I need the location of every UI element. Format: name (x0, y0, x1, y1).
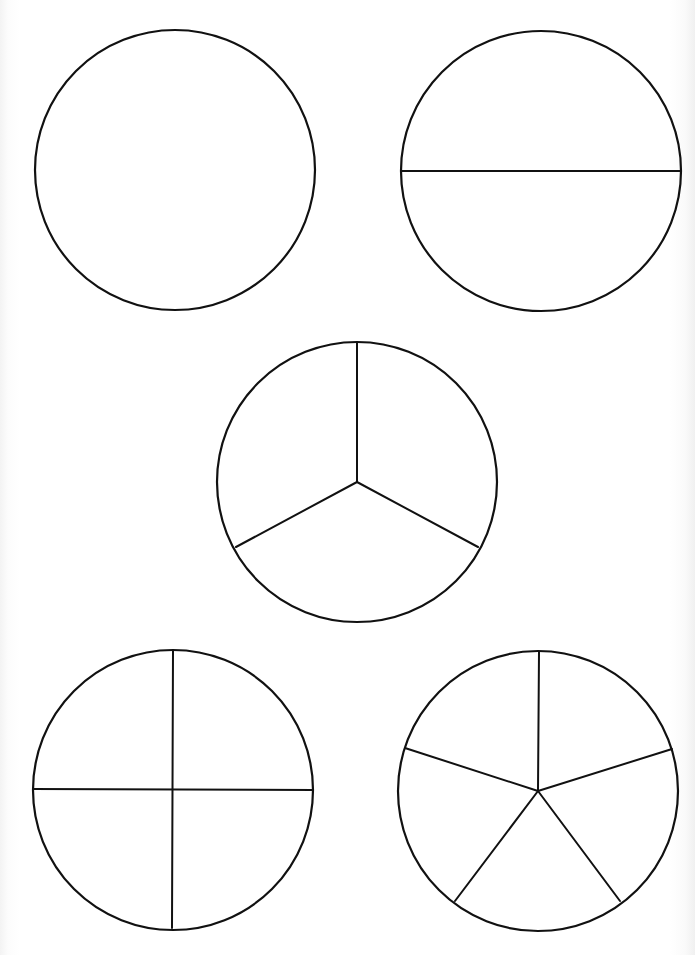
circle-quarters (33, 650, 313, 930)
fraction-circles-diagram (0, 0, 695, 955)
divider-line (538, 791, 620, 901)
divider-line (357, 482, 478, 547)
circle-fifths (398, 651, 678, 931)
divider-line (538, 652, 539, 791)
circle-whole (35, 30, 315, 310)
circle-outline (35, 30, 315, 310)
divider-line (236, 482, 357, 547)
worksheet-page (0, 0, 695, 955)
divider-line (538, 749, 672, 791)
divider-line (405, 748, 538, 791)
circle-thirds (217, 342, 497, 622)
divider-line (455, 791, 538, 901)
circle-halves (401, 31, 681, 311)
divider-line (33, 789, 313, 790)
